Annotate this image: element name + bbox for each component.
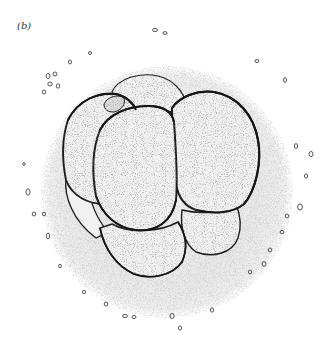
figure-panel: (b) <box>0 0 334 348</box>
embryo-illustration <box>0 0 334 348</box>
